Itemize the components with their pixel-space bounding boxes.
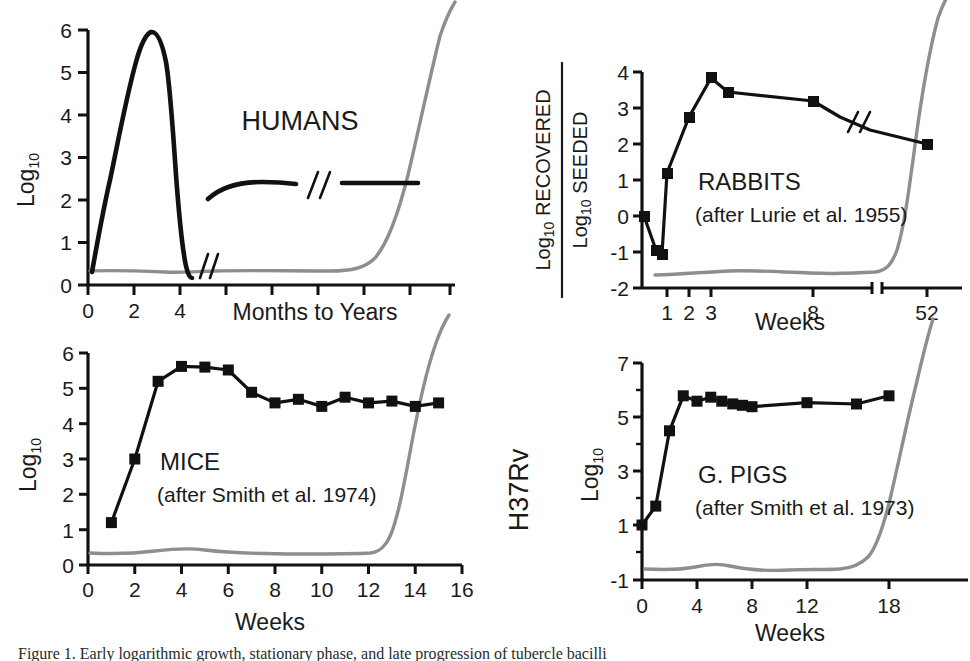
rabbits-ytick-0: 0	[617, 205, 629, 228]
gpigs-xtick-8: 8	[746, 594, 758, 617]
humans-title: HUMANS	[241, 106, 358, 136]
rabbits-ytick-m1: -1	[610, 241, 629, 264]
mice-gray-baseline-curve	[90, 315, 449, 554]
mice-xtick-0: 0	[82, 578, 94, 601]
gpigs-xtick-18: 18	[877, 594, 900, 617]
svg-text:Log10: Log10	[15, 438, 44, 492]
mice-xtick-2: 2	[129, 578, 141, 601]
humans-ytick-3: 3	[60, 146, 72, 169]
rabbits-ylabel-den-rest: SEEDED	[569, 112, 591, 200]
gpigs-ytick-7: 7	[617, 352, 629, 375]
gpigs-ylabel-sub: 10	[590, 448, 606, 464]
humans-ytick-4: 4	[60, 104, 72, 127]
rabbits-ytick-3: 3	[617, 97, 629, 120]
mice-xtick-16: 16	[450, 578, 473, 601]
mice-ytick-0: 0	[62, 554, 74, 577]
rabbits-y-axis-title-denominator: Log10 SEEDED	[569, 112, 594, 249]
panel-gpigs: -1 1 3 5 7 Log10 H37Rv 0 4	[490, 325, 970, 645]
gpigs-source: (after Smith et al. 1973)	[695, 496, 914, 519]
svg-text:Log10: Log10	[13, 153, 42, 207]
svg-text:Log10 RECOVERED: Log10 RECOVERED	[532, 89, 557, 270]
humans-ytick-6: 6	[60, 19, 72, 42]
rabbits-data-line	[644, 78, 927, 254]
gpigs-xtick-0: 0	[636, 594, 648, 617]
figure-caption: Figure 1. Early logarithmic growth, stat…	[18, 645, 952, 661]
mice-y-axis-title: Log10	[15, 438, 44, 492]
rabbits-plot: -2 -1 0 1 2 3 4 Log10 RECOVERED Log10 SE…	[490, 0, 970, 330]
humans-ytick-2: 2	[60, 189, 72, 212]
rabbits-xtick-52: 52	[915, 301, 938, 324]
gpigs-ytick-3: 3	[617, 460, 629, 483]
mice-ytick-2: 2	[62, 483, 74, 506]
panel-humans: 0 1 2 3 4 5 6 Log10	[0, 0, 490, 330]
gpigs-plot: -1 1 3 5 7 Log10 H37Rv 0 4	[490, 325, 970, 645]
gpigs-y-axis-title: Log10	[577, 448, 606, 502]
svg-text:Log10: Log10	[577, 448, 606, 502]
gpigs-title: G. PIGS	[698, 461, 787, 488]
humans-peak-curve	[92, 32, 192, 278]
rabbits-title: RABBITS	[698, 168, 801, 195]
panel-rabbits: -2 -1 0 1 2 3 4 Log10 RECOVERED Log10 SE…	[490, 0, 970, 330]
humans-plateau-break-icon	[308, 172, 330, 198]
rabbits-source: (after Lurie et al. 1955)	[695, 203, 907, 226]
strain-label-text: H37Rv	[504, 448, 534, 531]
rabbits-ytick-1: 1	[617, 169, 629, 192]
rabbits-data-markers	[639, 72, 933, 260]
mice-title: MICE	[160, 448, 220, 475]
strain-label: H37Rv	[504, 448, 534, 531]
humans-xtick-0: 0	[82, 299, 94, 322]
gpigs-x-axis-title: Weeks	[755, 620, 825, 646]
gpigs-gray-baseline-curve	[645, 319, 933, 570]
mice-ytick-3: 3	[62, 448, 74, 471]
rabbits-ytick-m2: -2	[610, 277, 629, 300]
mice-x-axis-title: Weeks	[235, 609, 305, 635]
humans-ytick-5: 5	[60, 61, 72, 84]
rabbits-ylabel-num-rest: RECOVERED	[532, 89, 554, 221]
humans-latent-left-curve	[208, 182, 296, 199]
humans-xtick-2: 2	[128, 299, 140, 322]
mice-source: (after Smith et al. 1974)	[157, 483, 376, 506]
mice-ylabel-main: Log	[15, 454, 41, 492]
mice-xtick-12: 12	[357, 578, 380, 601]
humans-ytick-1: 1	[60, 231, 72, 254]
panel-mice: 0 1 2 3 4 5 6 Log10	[0, 325, 490, 645]
humans-xtick-4: 4	[174, 299, 186, 322]
gpigs-ytick-5: 5	[617, 406, 629, 429]
figure-root: 0 1 2 3 4 5 6 Log10	[0, 0, 970, 661]
rabbits-ylabel-num-sub: 10	[541, 221, 557, 237]
gpigs-xtick-4: 4	[691, 594, 703, 617]
rabbits-ytick-4: 4	[617, 61, 629, 84]
humans-axis-break-icon	[200, 254, 218, 278]
gpigs-ytick-1: 1	[617, 514, 629, 537]
mice-ytick-6: 6	[62, 342, 74, 365]
rabbits-xtick-3: 3	[705, 301, 717, 324]
gpigs-xtick-12: 12	[795, 594, 818, 617]
humans-plot: 0 1 2 3 4 5 6 Log10	[0, 0, 490, 330]
rabbits-xtick-1: 1	[661, 301, 673, 324]
humans-ylabel-main: Log	[13, 169, 39, 207]
rabbits-xtick-2: 2	[683, 301, 695, 324]
rabbits-xaxis-break-icon	[872, 282, 882, 294]
rabbits-ylabel-num-main: Log	[532, 237, 554, 270]
rabbits-ylabel-den-sub: 10	[578, 199, 594, 215]
humans-x-axis-title: Months to Years	[233, 299, 398, 325]
mice-xtick-6: 6	[222, 578, 234, 601]
humans-y-axis-title: Log10	[13, 153, 42, 207]
gpigs-ytick-m1: -1	[610, 569, 629, 592]
gpigs-ylabel-main: Log	[577, 464, 603, 502]
mice-ytick-1: 1	[62, 519, 74, 542]
mice-ytick-5: 5	[62, 377, 74, 400]
svg-text:Log10 SEEDED: Log10 SEEDED	[569, 112, 594, 249]
mice-plot: 0 1 2 3 4 5 6 Log10	[0, 325, 490, 645]
humans-ytick-0: 0	[60, 274, 72, 297]
mice-ytick-4: 4	[62, 413, 74, 436]
humans-ylabel-sub: 10	[26, 153, 42, 169]
mice-xtick-8: 8	[269, 578, 281, 601]
mice-xtick-10: 10	[310, 578, 333, 601]
mice-ylabel-sub: 10	[28, 438, 44, 454]
mice-xtick-4: 4	[176, 578, 188, 601]
rabbits-ylabel-den-main: Log	[569, 215, 591, 248]
rabbits-y-axis-title-numerator: Log10 RECOVERED	[532, 89, 557, 270]
rabbits-ytick-2: 2	[617, 133, 629, 156]
mice-xtick-14: 14	[404, 578, 428, 601]
